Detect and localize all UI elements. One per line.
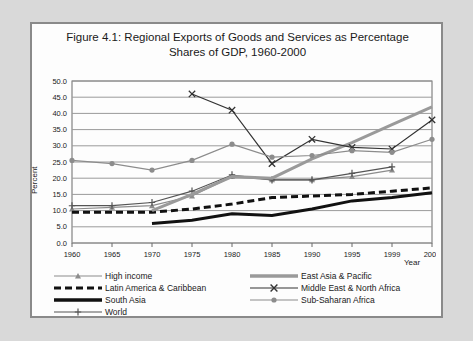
y-axis-label: Percent [30, 166, 39, 194]
x-tick-label: 1980 [224, 250, 241, 259]
x-tick-label: 1970 [144, 250, 161, 259]
data-point-marker [389, 150, 394, 155]
legend-item[interactable]: East Asia & Pacific [248, 270, 400, 282]
chart-title: Figure 4.1: Regional Exports of Goods an… [45, 30, 430, 60]
legend-item[interactable]: High income [52, 270, 206, 282]
x-tick-label: 1990 [304, 250, 321, 259]
y-tick-label: 40.0 [52, 109, 67, 118]
plot-svg: 0.05.010.015.020.025.030.035.040.045.050… [36, 76, 436, 276]
legend-item[interactable]: Sub-Saharan Africa [248, 294, 400, 306]
y-tick-label: 5.0 [57, 222, 67, 231]
data-point-marker [69, 158, 74, 163]
legend-item[interactable]: South Asia [52, 294, 206, 306]
data-point-marker [109, 161, 114, 166]
y-tick-label: 20.0 [52, 174, 67, 183]
y-tick-label: 35.0 [52, 125, 67, 134]
legend-item-label: Sub-Saharan Africa [300, 295, 375, 305]
legend-item-label: East Asia & Pacific [300, 271, 372, 281]
black-thick-solid-line-icon [52, 294, 104, 306]
x-tick-label: 2000 [424, 250, 436, 259]
data-point-marker [349, 148, 354, 153]
y-tick-label: 50.0 [52, 77, 67, 86]
legend-item-label: Latin America & Caribbean [104, 283, 206, 293]
x-tick-label: 1960 [64, 250, 81, 259]
legend-item[interactable]: World [52, 306, 206, 318]
x-axis-label: Year [404, 258, 420, 267]
gray-line-triangle-marker-icon [52, 270, 104, 282]
y-tick-label: 0.0 [57, 239, 67, 248]
chart-title-line-1: Figure 4.1: Regional Exports of Goods an… [45, 30, 430, 45]
x-tick-label: 1995 [344, 250, 361, 259]
legend-item[interactable]: Middle East & North Africa [248, 282, 400, 294]
legend-item-label: High income [104, 271, 152, 281]
data-point-marker [269, 155, 274, 160]
gray-thick-solid-line-icon [248, 270, 300, 282]
plot-area: Percent 0.05.010.015.020.025.030.035.040… [36, 76, 436, 251]
black-thick-dashed-line-icon [52, 282, 104, 294]
chart-page: Figure 4.1: Regional Exports of Goods an… [0, 0, 473, 341]
y-tick-label: 25.0 [52, 158, 67, 167]
gray-line-plus-marker-icon [52, 306, 104, 318]
data-point-marker [309, 153, 314, 158]
legend-item-label: World [104, 307, 127, 317]
chart-title-line-2: Shares of GDP, 1960-2000 [45, 45, 430, 60]
data-point-marker [149, 168, 154, 173]
x-tick-label: 1965 [104, 250, 121, 259]
y-tick-label: 30.0 [52, 141, 67, 150]
chart-legend: High incomeLatin America & CaribbeanSout… [52, 270, 427, 318]
gray-line-circle-marker-icon [248, 294, 300, 306]
legend-item[interactable]: Latin America & Caribbean [52, 282, 206, 294]
data-point-marker [229, 142, 234, 147]
data-point-marker [429, 137, 434, 142]
data-point-marker [189, 158, 194, 163]
y-tick-label: 45.0 [52, 93, 67, 102]
x-tick-label: 1975 [184, 250, 201, 259]
y-tick-label: 10.0 [52, 206, 67, 215]
x-tick-label: 1985 [264, 250, 281, 259]
dark-line-x-marker-icon [248, 282, 300, 294]
legend-column-left: High incomeLatin America & CaribbeanSout… [52, 270, 206, 318]
y-tick-label: 15.0 [52, 190, 67, 199]
legend-item-label: Middle East & North Africa [300, 283, 400, 293]
legend-item-label: South Asia [104, 295, 146, 305]
x-tick-label: 1999 [384, 250, 401, 259]
legend-column-right: East Asia & PacificMiddle East & North A… [248, 270, 400, 306]
